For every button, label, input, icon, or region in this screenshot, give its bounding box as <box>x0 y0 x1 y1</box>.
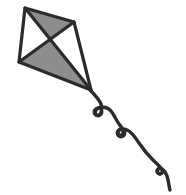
drawing-canvas <box>0 0 186 195</box>
kite-illustration <box>0 0 186 195</box>
